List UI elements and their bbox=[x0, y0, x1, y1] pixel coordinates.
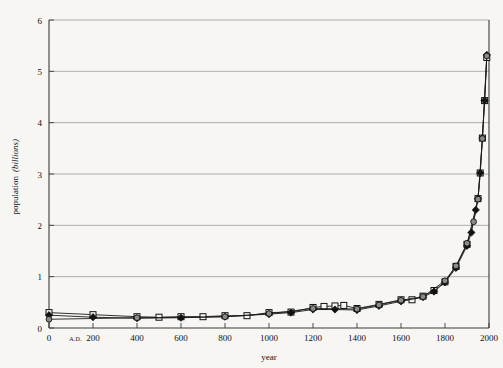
x-tick-label-800: 800 bbox=[218, 333, 232, 343]
y-tick-label-2: 2 bbox=[38, 221, 43, 231]
x-tick-label-400: 400 bbox=[130, 333, 144, 343]
data-point-circle bbox=[354, 306, 360, 312]
x-tick-label-1600: 1600 bbox=[392, 333, 411, 343]
y-tick-label-1: 1 bbox=[38, 272, 43, 282]
x-tick-label-1400: 1400 bbox=[348, 333, 367, 343]
data-point-circle bbox=[420, 294, 426, 300]
x-tick-label-600: 600 bbox=[174, 333, 188, 343]
chart-background bbox=[0, 0, 503, 368]
data-point-circle bbox=[134, 315, 140, 321]
x-tick-label-2000: 2000 bbox=[480, 333, 499, 343]
data-point-circle bbox=[480, 136, 486, 142]
population-chart-figure: 0200400600800100012001400160018002000 01… bbox=[0, 0, 503, 368]
era-prefix-label: A.D. bbox=[69, 336, 82, 342]
x-tick-label-1800: 1800 bbox=[436, 333, 455, 343]
y-tick-label-3: 3 bbox=[38, 170, 43, 180]
x-tick-label-1200: 1200 bbox=[304, 333, 323, 343]
y-tick-label-5: 5 bbox=[38, 67, 43, 77]
data-point-square bbox=[341, 302, 347, 308]
data-point-circle bbox=[453, 263, 459, 269]
data-point-circle bbox=[266, 311, 272, 317]
x-tick-label-1000: 1000 bbox=[260, 333, 279, 343]
y-axis-title-unit: (billions) bbox=[10, 139, 20, 172]
data-point-circle bbox=[475, 196, 481, 202]
data-point-circle bbox=[484, 53, 490, 59]
y-tick-label-0: 0 bbox=[38, 324, 43, 334]
x-tick-label-200: 200 bbox=[86, 333, 100, 343]
chart-canvas: 0200400600800100012001400160018002000 01… bbox=[0, 0, 503, 368]
data-point-circle bbox=[310, 306, 316, 312]
data-point-circle bbox=[471, 219, 477, 225]
x-tick-label-0: 0 bbox=[47, 333, 52, 343]
y-axis-title: population (billions) bbox=[10, 139, 20, 215]
data-point-circle bbox=[222, 314, 228, 320]
data-point-circle bbox=[442, 278, 448, 284]
x-axis-title: year bbox=[261, 352, 277, 362]
y-tick-label-4: 4 bbox=[38, 118, 43, 128]
data-point-circle bbox=[46, 316, 52, 322]
y-axis-title-main: population bbox=[10, 176, 20, 215]
data-point-circle bbox=[376, 302, 382, 308]
data-point-circle bbox=[398, 297, 404, 303]
data-point-circle bbox=[464, 240, 470, 246]
y-tick-label-6: 6 bbox=[38, 16, 43, 26]
